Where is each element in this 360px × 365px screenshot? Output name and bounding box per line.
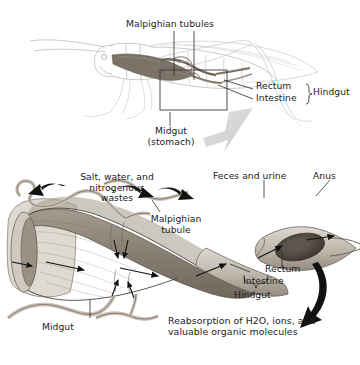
label-reabsorption-line1-a: Reabsorption of H — [168, 315, 253, 326]
label-reabsorption-caption: Reabsorption of H2O, ions, and valuable … — [168, 316, 316, 337]
label-anus: Anus — [313, 171, 336, 182]
diagram-artwork — [0, 0, 360, 365]
label-hindgut-top: Hindgut — [313, 87, 350, 98]
label-intestine-top: Intestine — [256, 93, 297, 104]
label-malpighian-tubules-top: Malpighian tubules — [126, 19, 214, 30]
label-salt-line3: wastes — [62, 193, 172, 204]
label-salt-line1: Salt, water, and — [62, 172, 172, 183]
label-reabsorption-line2: valuable organic molecules — [168, 327, 316, 338]
label-malpighian-tubule-line2: tubule — [140, 225, 212, 236]
top-panel-hindgut-brace — [306, 84, 312, 104]
label-rectum-bottom: Rectum — [265, 264, 300, 275]
grasshopper-internal-gut — [112, 54, 252, 83]
malpighian-tubules-lower — [8, 294, 158, 319]
label-midgut-top: Midgut (stomach) — [140, 126, 202, 147]
label-midgut-top-line1: Midgut — [140, 126, 202, 137]
label-rectum-top: Rectum — [256, 81, 291, 92]
label-malpighian-tubule-bottom: Malpighian tubule — [140, 214, 212, 235]
label-salt-water-nitrogenous-wastes: Salt, water, and nitrogenous wastes — [62, 172, 172, 204]
label-reabsorption-line1-b: O, ions, and — [259, 315, 316, 326]
insect-digestive-system-figure: Malpighian tubules Rectum Intestine Hind… — [0, 0, 360, 365]
label-reabsorption-line1: Reabsorption of H2O, ions, and — [168, 316, 316, 327]
label-feces-and-urine: Feces and urine — [213, 171, 286, 182]
label-hindgut-bottom: Hindgut — [234, 290, 271, 301]
zoom-transition-arrow — [203, 108, 253, 152]
label-midgut-bottom: Midgut — [42, 322, 74, 333]
label-intestine-bottom: Intestine — [243, 276, 284, 287]
label-malpighian-tubule-line1: Malpighian — [140, 214, 212, 225]
label-midgut-top-line2: (stomach) — [140, 137, 202, 148]
